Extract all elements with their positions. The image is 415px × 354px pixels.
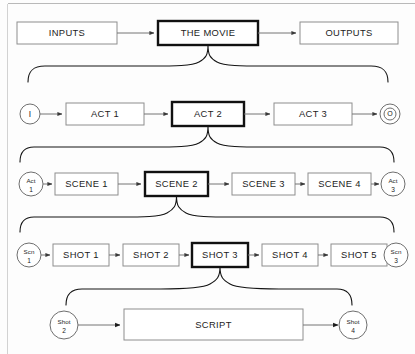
script-row: Shot 2 SCRIPT Shot 4 bbox=[50, 309, 367, 340]
terminal-o-label: O bbox=[387, 110, 393, 117]
box-scene-1-label: SCENE 1 bbox=[65, 178, 108, 189]
node-shot-4[interactable] bbox=[339, 311, 367, 339]
brace-movie-to-act bbox=[28, 45, 388, 82]
node-act-3-label-bottom: 3 bbox=[391, 186, 395, 193]
box-the-movie-label: THE MOVIE bbox=[181, 27, 236, 38]
act-row: I ACT 1 ACT 2 ACT 3 O bbox=[20, 102, 400, 126]
box-shot-4-label: SHOT 4 bbox=[272, 249, 308, 260]
box-scene-3-label: SCENE 3 bbox=[242, 178, 285, 189]
box-act-1-label: ACT 1 bbox=[91, 108, 119, 119]
node-scn-3-label-bottom: 3 bbox=[394, 257, 398, 264]
node-shot-4-label-top: Shot bbox=[346, 318, 359, 325]
box-shot-2-label: SHOT 2 bbox=[133, 249, 169, 260]
box-shot-3-label: SHOT 3 bbox=[202, 249, 238, 260]
node-act-1-label-top: Act bbox=[26, 177, 35, 184]
scene-row: Act 1 SCENE 1 SCENE 2 SCENE 3 SCENE 4 Ac… bbox=[19, 172, 405, 196]
node-scn-1-label-top: Scn bbox=[24, 248, 35, 255]
box-outputs-label: OUTPUTS bbox=[325, 27, 372, 38]
node-act-1-label-bottom: 1 bbox=[29, 186, 33, 193]
movie-row: INPUTS THE MOVIE OUTPUTS bbox=[17, 21, 398, 45]
movie-decomposition-diagram: INPUTS THE MOVIE OUTPUTS I ACT 1 ACT 2 A… bbox=[0, 0, 415, 354]
terminal-i-label: I bbox=[29, 109, 31, 119]
node-shot-2-label-top: Shot bbox=[57, 318, 70, 325]
node-act-3-label-top: Act bbox=[388, 177, 397, 184]
node-shot-2[interactable] bbox=[50, 311, 78, 339]
node-shot-4-label-bottom: 4 bbox=[351, 327, 355, 334]
node-shot-2-label-bottom: 2 bbox=[62, 327, 66, 334]
shot-row: Scn 1 SHOT 1 SHOT 2 SHOT 3 SHOT 4 SHOT 5… bbox=[17, 243, 408, 267]
brace-act-to-scene bbox=[20, 126, 394, 162]
node-scn-1-label-bottom: 1 bbox=[27, 257, 31, 264]
brace-scene-to-shot bbox=[20, 196, 394, 232]
box-act-2-label: ACT 2 bbox=[194, 108, 222, 119]
box-shot-5-label: SHOT 5 bbox=[341, 249, 377, 260]
box-script-label: SCRIPT bbox=[195, 319, 231, 330]
brace-shot-to-script bbox=[66, 267, 352, 305]
node-scn-3-label-top: Scn bbox=[391, 248, 402, 255]
diagram-page: INPUTS THE MOVIE OUTPUTS I ACT 1 ACT 2 A… bbox=[0, 0, 415, 354]
box-scene-2-label: SCENE 2 bbox=[155, 178, 198, 189]
box-scene-4-label: SCENE 4 bbox=[318, 178, 361, 189]
box-inputs-label: INPUTS bbox=[49, 27, 85, 38]
box-act-3-label: ACT 3 bbox=[299, 108, 327, 119]
box-shot-1-label: SHOT 1 bbox=[63, 249, 99, 260]
